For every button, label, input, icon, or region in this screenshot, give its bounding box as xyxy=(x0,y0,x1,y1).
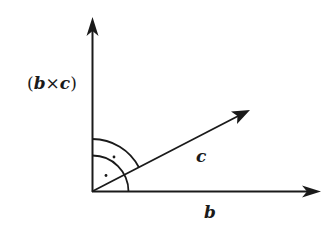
right-angle-dot-upper xyxy=(113,156,116,159)
right-angle-markers xyxy=(93,139,140,192)
vector-c xyxy=(92,110,250,192)
label-cross-product: (b×c) xyxy=(27,73,77,93)
label-vector-b: b xyxy=(204,202,216,222)
angle-arc-c-b xyxy=(93,156,129,192)
vector-b-cross-c xyxy=(87,17,99,192)
arrowhead-diagonal-icon xyxy=(231,110,250,124)
vector-b xyxy=(92,186,321,198)
right-angle-dot-lower xyxy=(105,174,108,177)
label-vector-c: c xyxy=(196,146,207,166)
cross-product-diagram: (b×c) c b xyxy=(0,0,333,229)
